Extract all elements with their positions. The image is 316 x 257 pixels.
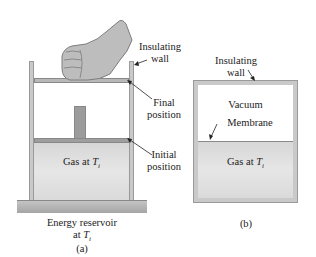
label-gas-b: Gas at Ti: [198, 156, 293, 172]
label-vacuum: Vacuum: [198, 99, 293, 111]
label-line: Insulating: [206, 55, 266, 67]
label-membrane: Membrane: [215, 117, 285, 129]
temp-subscript: i: [262, 162, 264, 170]
gas-text: Gas at: [227, 156, 256, 167]
caption-b: (b): [221, 218, 271, 230]
label-line: wall: [206, 67, 266, 79]
label-insulating-wall-b: Insulating wall: [206, 55, 266, 79]
